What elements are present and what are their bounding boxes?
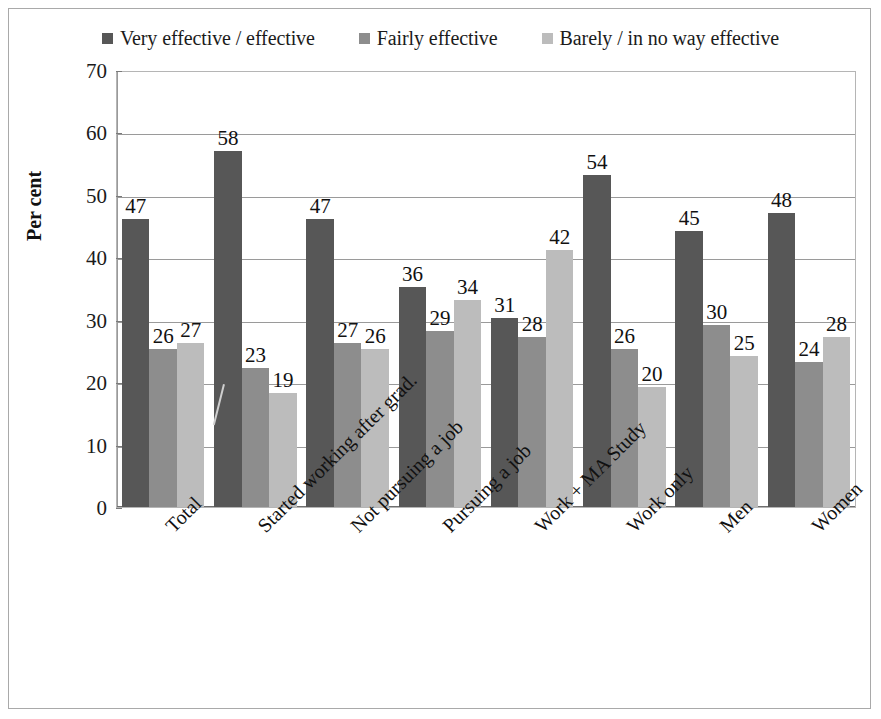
bar-value-label: 24 bbox=[798, 339, 819, 360]
bar-value-label: 31 bbox=[494, 295, 515, 316]
legend-swatch-icon bbox=[102, 33, 113, 44]
bar[interactable]: 58 bbox=[214, 151, 242, 507]
y-axis-tick-label: 50 bbox=[67, 183, 107, 208]
bar-value-label: 34 bbox=[457, 277, 478, 298]
legend-item-very-effective: Very effective / effective bbox=[102, 27, 315, 50]
y-axis-tick-labels: 706050403020100 bbox=[61, 71, 107, 508]
y-axis-tick-mark bbox=[116, 321, 122, 322]
y-axis-tick-label: 40 bbox=[67, 246, 107, 271]
bar-value-label: 19 bbox=[272, 370, 293, 391]
bar-value-label: 20 bbox=[641, 364, 662, 385]
bar-value-label: 26 bbox=[614, 326, 635, 347]
bar-group: 453025 bbox=[671, 72, 763, 507]
y-axis-tick-mark bbox=[116, 383, 122, 384]
bar-value-label: 29 bbox=[429, 308, 450, 329]
bar-value-label: 23 bbox=[245, 345, 266, 366]
y-axis-tick-mark bbox=[116, 133, 122, 134]
bar[interactable]: 26 bbox=[149, 349, 177, 507]
bar-value-label: 30 bbox=[706, 302, 727, 323]
bar-value-label: 58 bbox=[217, 128, 238, 149]
bar-value-label: 27 bbox=[337, 320, 358, 341]
legend-item-label: Very effective / effective bbox=[120, 27, 315, 50]
bar[interactable]: 23 bbox=[242, 368, 270, 507]
bar-group: 472627 bbox=[117, 72, 209, 507]
x-axis-label-cell: Started working after grad. bbox=[209, 509, 301, 679]
y-axis-tick-mark bbox=[116, 446, 122, 447]
bars-layer: 4726275823194727263629343128425426204530… bbox=[117, 72, 855, 507]
chart-legend: Very effective / effective Fairly effect… bbox=[9, 27, 872, 50]
x-axis-label-cell: Pursuing a job bbox=[394, 509, 486, 679]
y-axis-tick-mark bbox=[116, 71, 122, 72]
y-axis-tick-mark bbox=[116, 508, 122, 509]
bar-value-label: 54 bbox=[586, 152, 607, 173]
bar-value-label: 27 bbox=[180, 320, 201, 341]
bar[interactable]: 24 bbox=[795, 362, 823, 507]
bar[interactable]: 28 bbox=[518, 337, 546, 507]
bar[interactable]: 30 bbox=[703, 325, 731, 507]
bar-value-label: 47 bbox=[310, 196, 331, 217]
bar[interactable]: 47 bbox=[122, 219, 150, 507]
legend-item-label: Fairly effective bbox=[377, 27, 498, 50]
x-axis-label-cell: Not pursuing a job bbox=[302, 509, 394, 679]
x-axis-label-cell: Work + MA Study bbox=[486, 509, 578, 679]
bar[interactable]: 42 bbox=[546, 250, 574, 507]
x-axis-labels: TotalStarted working after grad.Not purs… bbox=[117, 509, 855, 679]
bar-value-label: 26 bbox=[153, 326, 174, 347]
chart-figure: Very effective / effective Fairly effect… bbox=[8, 8, 871, 709]
bar-value-label: 25 bbox=[734, 333, 755, 354]
bar-value-label: 47 bbox=[125, 196, 146, 217]
y-axis-tick-mark bbox=[116, 196, 122, 197]
y-axis-title: Per cent bbox=[23, 171, 46, 241]
legend-item-label: Barely / in no way effective bbox=[560, 27, 780, 50]
x-axis-label-cell: Men bbox=[671, 509, 763, 679]
x-axis-label-cell: Women bbox=[763, 509, 855, 679]
legend-item-barely-effective: Barely / in no way effective bbox=[542, 27, 780, 50]
y-axis-tick-label: 30 bbox=[67, 308, 107, 333]
bar-value-label: 45 bbox=[679, 208, 700, 229]
legend-swatch-icon bbox=[542, 33, 553, 44]
bar-value-label: 48 bbox=[771, 190, 792, 211]
bar[interactable]: 25 bbox=[730, 356, 758, 507]
y-axis-tick-label: 70 bbox=[67, 59, 107, 84]
x-axis-label-cell: Total bbox=[117, 509, 209, 679]
bar-group: 312842 bbox=[486, 72, 578, 507]
legend-item-fairly-effective: Fairly effective bbox=[359, 27, 498, 50]
bar-group: 482428 bbox=[763, 72, 855, 507]
y-axis-tick-label: 10 bbox=[67, 433, 107, 458]
bar-value-label: 28 bbox=[522, 314, 543, 335]
y-axis-tick-mark bbox=[116, 258, 122, 259]
bar-value-label: 42 bbox=[549, 227, 570, 248]
bar-group: 582319 bbox=[209, 72, 301, 507]
bar-value-label: 28 bbox=[826, 314, 847, 335]
legend-swatch-icon bbox=[359, 33, 370, 44]
y-axis-tick-label: 60 bbox=[67, 121, 107, 146]
x-axis-label-cell: Work only bbox=[578, 509, 670, 679]
bar-value-label: 36 bbox=[402, 264, 423, 285]
y-axis-tick-label: 20 bbox=[67, 371, 107, 396]
y-axis-tick-label: 0 bbox=[67, 496, 107, 521]
bar[interactable]: 48 bbox=[768, 213, 796, 507]
bar[interactable]: 34 bbox=[454, 300, 482, 507]
bar[interactable]: 27 bbox=[177, 343, 205, 507]
bar-value-label: 26 bbox=[365, 326, 386, 347]
